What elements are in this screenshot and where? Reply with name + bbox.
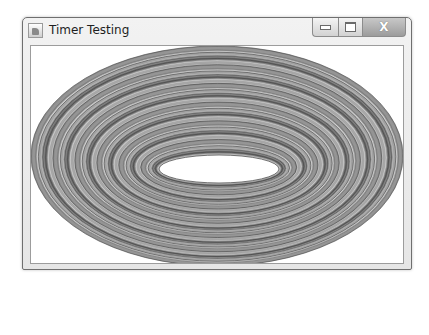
drawing-canvas [30, 45, 404, 264]
window-title: Timer Testing [49, 23, 129, 37]
java-cup-icon[interactable] [28, 23, 43, 38]
close-icon: X [379, 20, 388, 34]
title-bar[interactable]: Timer Testing X [23, 18, 411, 44]
minimize-button[interactable] [312, 18, 338, 37]
window-controls: X [312, 18, 406, 38]
minimize-icon [320, 25, 331, 30]
maximize-icon [345, 22, 356, 32]
maximize-button[interactable] [338, 18, 363, 37]
app-window: Timer Testing X [22, 17, 412, 270]
concentric-ellipses [31, 46, 403, 263]
close-button[interactable]: X [363, 18, 406, 37]
